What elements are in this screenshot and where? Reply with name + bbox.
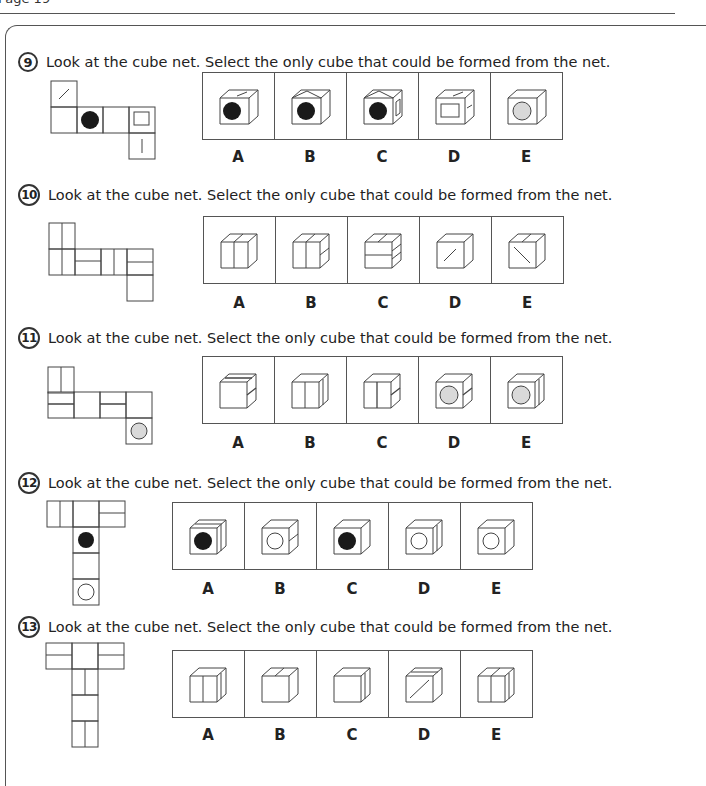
question-number: 9 [18,52,38,72]
option-label: C [346,434,418,452]
option-d[interactable] [419,217,491,283]
cube-net [48,222,158,302]
option-label: B [244,726,316,744]
option-label: E [460,580,532,598]
option-label: E [460,726,532,744]
option-label: C [346,148,418,166]
option-label: D [388,580,460,598]
option-label: A [172,726,244,744]
cube-icon [187,516,231,556]
question-number: 12 [18,472,40,494]
option-c[interactable] [346,357,418,423]
option-d[interactable] [388,503,460,569]
cube-icon [505,370,549,410]
cube-icon [289,370,333,410]
option-label: B [274,434,346,452]
option-e[interactable] [490,357,562,423]
question-text: Look at the cube net. Select the only cu… [48,475,612,491]
option-a[interactable] [173,651,244,717]
option-label: B [244,580,316,598]
cube-icon [289,86,333,126]
cube-icon [218,230,262,270]
cube-net [46,500,130,606]
answer-options [172,650,533,718]
cube-icon [259,664,303,704]
option-label: D [419,294,491,312]
cube-icon [290,230,334,270]
option-label: A [202,148,274,166]
cube-icon [433,370,477,410]
option-label: D [388,726,460,744]
option-labels: A B C D E [202,148,562,166]
option-label: A [203,294,275,312]
cube-icon [361,86,405,126]
cube-icon [403,664,447,704]
option-e[interactable] [460,503,532,569]
option-e[interactable] [490,73,562,139]
cube-icon [434,230,478,270]
option-b[interactable] [274,357,346,423]
option-labels: A B C D E [202,434,562,452]
question-number: 10 [18,184,40,206]
option-label: E [490,148,562,166]
option-labels: A B C D E [203,294,563,312]
cube-icon [506,230,550,270]
cube-icon [403,516,447,556]
option-label: C [316,580,388,598]
answer-options [202,356,563,424]
question-text: Look at the cube net. Select the only cu… [48,330,612,346]
option-e[interactable] [491,217,563,283]
option-a[interactable] [173,503,244,569]
option-label: C [347,294,419,312]
question-text: Look at the cube net. Select the only cu… [48,187,612,203]
answer-options [202,72,563,140]
option-labels: A B C D E [172,580,532,598]
option-label: A [172,580,244,598]
option-d[interactable] [388,651,460,717]
cube-icon [331,516,375,556]
question-text: Look at the cube net. Select the only cu… [46,54,610,70]
option-label: A [202,434,274,452]
cube-icon [187,664,231,704]
option-e[interactable] [460,651,532,717]
question-text: Look at the cube net. Select the only cu… [48,619,612,635]
answer-options [172,502,533,570]
cube-net [47,366,157,446]
option-label: C [316,726,388,744]
option-label: B [274,148,346,166]
question-number: 13 [18,616,40,638]
option-label: E [490,434,562,452]
option-d[interactable] [418,73,490,139]
option-labels: A B C D E [172,726,532,744]
option-b[interactable] [275,217,347,283]
page-label: Page 19 [0,0,50,6]
cube-net [45,642,129,748]
cube-icon [361,370,405,410]
option-c[interactable] [316,651,388,717]
cube-net [50,80,160,160]
question-number: 11 [18,327,40,349]
option-label: D [418,434,490,452]
option-b[interactable] [244,651,316,717]
option-a[interactable] [203,357,274,423]
option-d[interactable] [418,357,490,423]
cube-icon [259,516,303,556]
option-c[interactable] [316,503,388,569]
cube-icon [433,86,477,126]
cube-icon [362,230,406,270]
cube-icon [475,664,519,704]
option-a[interactable] [203,73,274,139]
option-label: D [418,148,490,166]
option-c[interactable] [347,217,419,283]
cube-icon [331,664,375,704]
cube-icon [217,86,261,126]
option-b[interactable] [274,73,346,139]
option-b[interactable] [244,503,316,569]
option-a[interactable] [204,217,275,283]
answer-options [203,216,564,284]
option-label: B [275,294,347,312]
cube-icon [217,370,261,410]
top-rule [0,13,675,14]
option-c[interactable] [346,73,418,139]
cube-icon [475,516,519,556]
